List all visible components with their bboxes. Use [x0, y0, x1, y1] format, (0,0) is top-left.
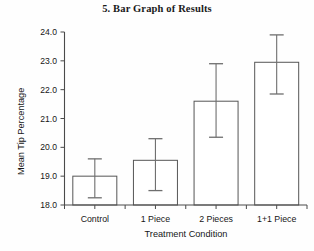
y-tick-label: 23.0 — [40, 56, 57, 66]
y-tick-label: 21.0 — [40, 114, 57, 124]
bar-chart-figure: 5. Bar Graph of Results Mean Tip Percent… — [0, 0, 314, 251]
x-axis-title: Treatment Condition — [145, 229, 228, 239]
y-tick-label: 24.0 — [40, 27, 57, 37]
y-tick-label: 18.0 — [40, 200, 57, 210]
y-tick-mark-group — [61, 32, 65, 205]
y-tick-label: 19.0 — [40, 171, 57, 181]
x-tick-label-group: Control1 Piece2 Pieces1+1 Piece — [81, 214, 297, 224]
x-tick-label: 1 Piece — [141, 214, 170, 224]
y-tick-label: 22.0 — [40, 85, 57, 95]
x-tick-mark-group — [65, 205, 308, 209]
x-tick-label: 2 Pieces — [199, 214, 233, 224]
y-tick-label: 20.0 — [40, 142, 57, 152]
x-tick-label: Control — [81, 214, 109, 224]
plot-area: 18.019.020.021.022.023.024.0 Control1 Pi… — [0, 0, 314, 251]
y-tick-label-group: 18.019.020.021.022.023.024.0 — [40, 27, 57, 210]
x-tick-label: 1+1 Piece — [257, 214, 296, 224]
bars-group — [73, 62, 299, 205]
